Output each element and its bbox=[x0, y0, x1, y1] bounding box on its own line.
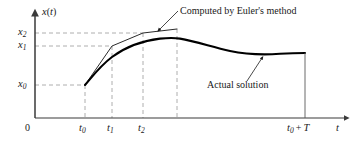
x-tick-operator-plus: + bbox=[296, 122, 302, 133]
x-tick-label-t0-plus-T: t0+T bbox=[287, 123, 309, 135]
y-axis-label: x(t) bbox=[42, 7, 56, 18]
actual-annotation-text: Actual solution bbox=[207, 80, 268, 90]
actual-solution-curve bbox=[85, 38, 305, 85]
y-tick-sub-x0: 0 bbox=[23, 82, 27, 91]
x-tick-sub-t0: 0 bbox=[82, 126, 86, 135]
y-tick-label-x0: x0 bbox=[18, 79, 27, 91]
euler-annotation-text: Computed by Euler's method bbox=[180, 6, 297, 16]
x-tick-term-T: T bbox=[304, 122, 310, 133]
y-tick-base-x1: x bbox=[18, 39, 23, 50]
origin-label: 0 bbox=[25, 123, 30, 133]
x-axis-label: t bbox=[336, 123, 339, 134]
y-tick-sub-x2: 2 bbox=[23, 30, 27, 39]
x-tick-sub-t0-end: 0 bbox=[290, 126, 294, 135]
x-tick-sub-t1: 1 bbox=[110, 126, 114, 135]
y-tick-label-x2: x2 bbox=[18, 27, 27, 39]
x-tick-label-t2: t2 bbox=[138, 123, 145, 135]
y-axis-label-paren-close: ) bbox=[53, 6, 56, 17]
axes bbox=[35, 15, 345, 118]
euler-leader-line bbox=[159, 11, 178, 30]
y-tick-label-x1: x1 bbox=[18, 40, 27, 52]
guide-lines bbox=[35, 29, 177, 118]
y-tick-sub-x1: 1 bbox=[23, 43, 27, 52]
x-tick-label-t0: t0 bbox=[79, 123, 86, 135]
euler-method-figure: x(t) x2 x1 x0 0 t0 t1 t2 t0+T t Computed… bbox=[0, 0, 357, 145]
actual-leader-line bbox=[247, 58, 262, 81]
x-tick-sub-t2: 2 bbox=[141, 126, 145, 135]
x-tick-label-t1: t1 bbox=[107, 123, 114, 135]
y-tick-base-x2: x bbox=[18, 26, 23, 37]
y-tick-base-x0: x bbox=[18, 78, 23, 89]
